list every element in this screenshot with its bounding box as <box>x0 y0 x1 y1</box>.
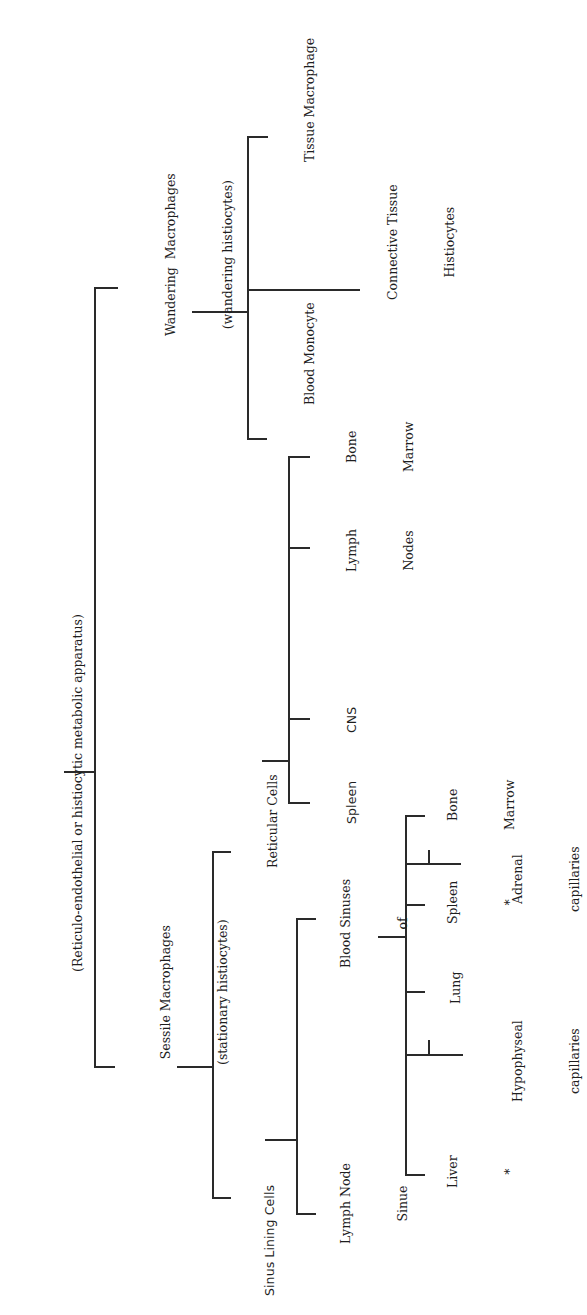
hypophyseal-capillaries-line <box>405 1054 463 1056</box>
reticular-spine-line <box>288 456 290 803</box>
connective-tissue-histiocytes-label: Connective Tissue Histiocytes <box>345 184 497 300</box>
sessile-stub-line <box>177 1066 213 1068</box>
hypophyseal-capillaries-label: Hypophyseal capillaries <box>470 1020 587 1102</box>
wandering-macrophages-label: Wandering Macrophages (wandering histioc… <box>123 173 275 336</box>
reticular-stub-line <box>262 760 289 762</box>
reticular-cns-label: CNS <box>304 707 399 733</box>
reticular-lymph-nodes-label: Lymph Nodes <box>304 529 456 572</box>
sessile-branch-line <box>94 1066 115 1068</box>
adrenal-divider-line <box>428 850 430 864</box>
blood-monocyte-branch-line <box>247 438 267 440</box>
wandering-branch-line <box>94 287 118 289</box>
reticular-spleen-label: Spleen <box>304 781 399 824</box>
liver-asterisk: * <box>500 1155 519 1188</box>
blood-monocyte-label: Blood Monocyte <box>262 302 357 405</box>
blood-sinuses-spine-line <box>405 815 407 1176</box>
adrenal-capillaries-label: Adrenal capillaries <box>470 846 587 912</box>
sinus-lung-label: Lung <box>408 972 503 1004</box>
sinus-lining-stub-line <box>265 1139 297 1141</box>
adrenal-capillaries-line <box>405 863 461 865</box>
tissue-macrophage-label: Tissue Macrophage <box>262 38 357 162</box>
reticular-bone-marrow-label: Bone Marrow <box>304 422 456 472</box>
root-label: (Reticulo-endothelial or histiocytic met… <box>30 614 125 972</box>
sinus-liver-label: Liver * <box>405 1155 557 1188</box>
sinus-bone-marrow-label: Bone Marrow <box>405 780 557 830</box>
hypophyseal-divider-line <box>428 1040 430 1054</box>
sessile-macrophages-label: Sessile Macrophages (stationary histiocy… <box>118 919 270 1065</box>
